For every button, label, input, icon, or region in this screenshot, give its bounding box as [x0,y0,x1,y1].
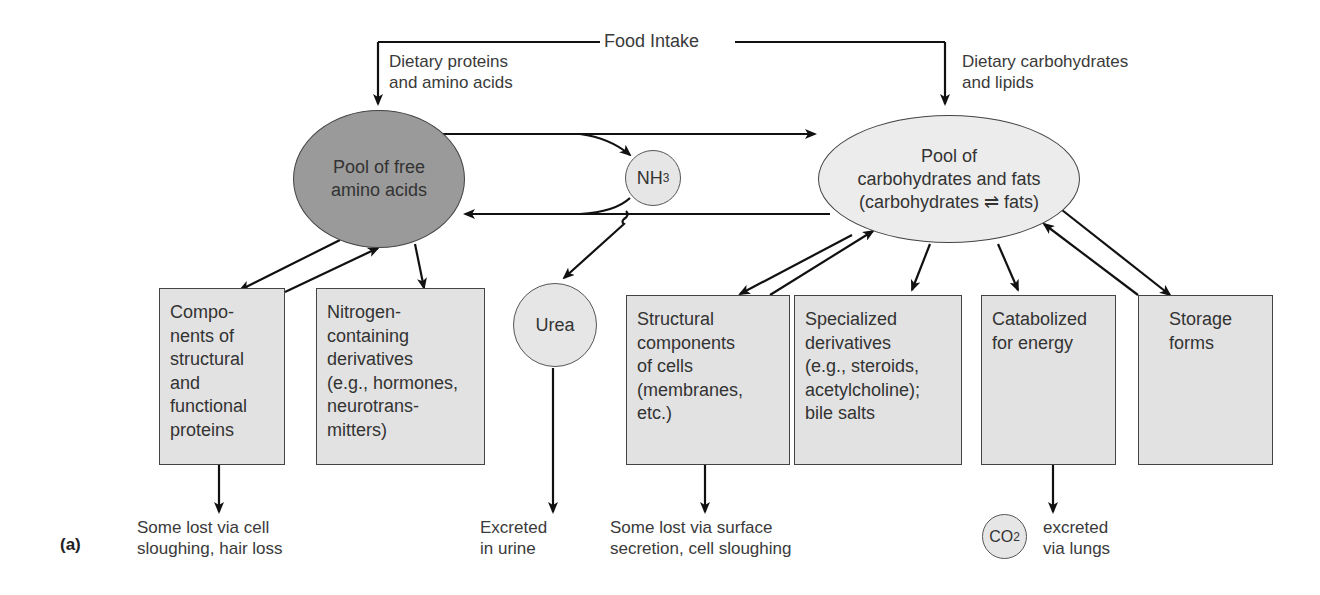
outcome-hair-loss: Some lost via cell sloughing, hair loss [137,517,283,559]
co2-node: CO2 [982,514,1027,559]
box-specialized-derivatives: Specialized derivatives (e.g., steroids,… [794,295,962,465]
urea-node: Urea [513,283,597,367]
dietary-carbs-label: Dietary carbohydrates and lipids [962,51,1128,93]
nh3-node: NH3 [625,150,681,206]
box-components-proteins: Compo- nents of structural and functiona… [159,288,285,465]
food-intake-label: Food Intake [604,31,699,52]
amino-acid-pool: Pool of free amino acids [293,110,465,248]
panel-label: (a) [60,535,81,555]
box-storage-forms: Storage forms [1138,295,1273,465]
box-structural-cells: Structural components of cells (membrane… [626,295,790,465]
box-nitrogen-derivatives: Nitrogen- containing derivatives (e.g., … [316,288,485,465]
dietary-proteins-label: Dietary proteins and amino acids [389,51,513,93]
outcome-urine: Excreted in urine [480,517,547,559]
box-catabolized-energy: Catabolized for energy [981,295,1116,465]
carb-fat-pool: Pool of carbohydrates and fats (carbohyd… [818,115,1080,243]
outcome-surface: Some lost via surface secretion, cell sl… [610,517,791,559]
outcome-lungs: excreted via lungs [1043,517,1110,559]
